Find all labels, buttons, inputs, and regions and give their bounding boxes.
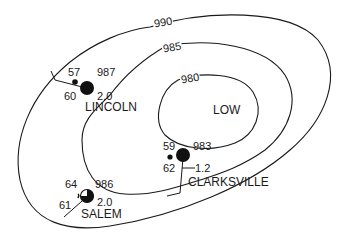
clarksville-pressure-change: 1.2 [195,163,210,174]
sky-cover-overcast-icon [176,148,190,162]
salem-pressure: 986 [95,179,113,190]
salem-temperature: 64 [65,179,77,190]
wind-barb-icon [180,158,183,193]
salem-city-name: SALEM [81,208,122,220]
weather-map: 990 985 980 LOW 57 987 60 2.0 LINCOLN 59… [0,0,342,234]
rain-dot-icon [167,154,172,159]
isobar-980 [159,75,259,148]
lincoln-temperature: 57 [68,67,80,78]
clarksville-temperature: 59 [163,141,175,152]
low-pressure-label: LOW [213,104,240,116]
drizzle-comma-icon [78,194,79,198]
salem-dew-point: 61 [59,200,71,211]
clarksville-city-name: CLARKSVILLE [188,176,269,188]
isobar-lines [0,0,342,234]
lincoln-dew-point: 60 [64,91,76,102]
sky-cover-overcast-icon [80,81,94,95]
lincoln-pressure: 987 [97,67,115,78]
clarksville-pressure: 983 [193,141,211,152]
rain-dot-icon [72,79,78,85]
clarksville-dew-point: 62 [163,163,175,174]
lincoln-city-name: LINCOLN [85,101,137,113]
